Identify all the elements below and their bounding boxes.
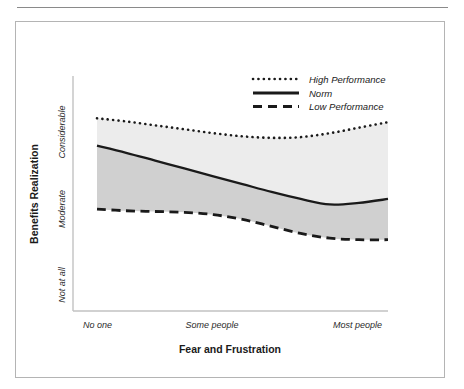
x-tick-label-some-people: Some people	[185, 320, 238, 330]
x-tick-label-no-one: No one	[83, 320, 112, 330]
x-axis-title: Fear and Frustration	[179, 343, 281, 355]
legend-label-norm: Norm	[309, 88, 332, 99]
y-axis-tick-labels: Considerable Moderate Not at all	[57, 105, 67, 302]
legend-label-low-performance: Low Performance	[309, 101, 383, 112]
y-tick-label-moderate: Moderate	[57, 190, 67, 228]
x-axis-tick-labels: No one Some people Most people	[83, 320, 382, 330]
benefits-realization-chart: High Performance Norm Low Performance Co…	[16, 22, 444, 377]
figure-container: High Performance Norm Low Performance Co…	[0, 0, 464, 389]
y-tick-label-not-at-all: Not at all	[57, 266, 67, 303]
legend-label-high-performance: High Performance	[309, 74, 386, 85]
x-tick-label-most-people: Most people	[333, 320, 382, 330]
y-tick-label-considerable: Considerable	[57, 105, 67, 158]
chart-panel: High Performance Norm Low Performance Co…	[15, 21, 445, 378]
y-axis-title: Benefits Realization	[28, 144, 40, 244]
top-horizontal-rule	[17, 7, 448, 8]
chart-legend: High Performance Norm Low Performance	[253, 74, 386, 113]
